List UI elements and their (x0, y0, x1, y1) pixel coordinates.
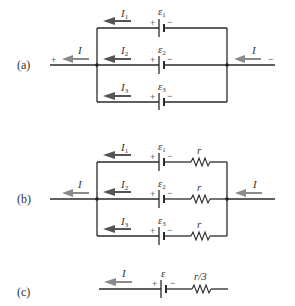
circuit-diagram: (a) I + I − + − ε1 I1 (0, 0, 295, 306)
branch-current-label: I1 (120, 141, 129, 155)
battery-plus-sign: + (150, 92, 155, 102)
battery-minus-sign: − (167, 188, 172, 198)
branch-1: + − ε1 I1 (97, 5, 227, 37)
resistor-label: r/3 (194, 270, 207, 282)
branch-current-label: I3 (120, 81, 129, 95)
arrow-head-icon (103, 225, 115, 233)
battery-minus-sign: − (167, 225, 172, 235)
current-label-right: I (252, 178, 258, 190)
branch-1: + − ε1 r I1 (97, 140, 227, 171)
arrow-head-icon (103, 188, 115, 196)
battery-minus-sign: − (167, 151, 172, 161)
arrow-head-icon (103, 17, 115, 25)
arrow-head-icon (104, 278, 116, 286)
resistor-symbol (192, 285, 211, 293)
battery-minus-sign: − (170, 278, 175, 288)
arrow-head-icon (235, 189, 246, 197)
current-label-left: I (77, 44, 83, 56)
arrow-head-icon (62, 55, 73, 63)
arrow-head-icon (103, 151, 115, 159)
battery-plus-sign: + (150, 189, 155, 199)
battery-minus-sign: − (167, 54, 172, 64)
panel-b-label: (b) (17, 192, 31, 206)
arrow-head-icon (234, 55, 245, 63)
panel-a: (a) I + I − + − ε1 I1 (17, 5, 275, 110)
panel-b: (b) I I + − ε1 r I1 (17, 140, 275, 245)
battery-plus-sign: + (150, 18, 155, 28)
emf-label: ε1 (158, 5, 166, 19)
panel-c: (c) + − ε r/3 I (17, 267, 228, 299)
resistor-label: r (197, 181, 202, 193)
battery-minus-sign: − (167, 17, 172, 27)
plus-terminal-sign: + (51, 55, 56, 65)
resistor-label: r (197, 218, 202, 230)
emf-label: ε2 (158, 43, 166, 57)
branch-current-label: I2 (120, 178, 129, 192)
battery-plus-sign: + (150, 226, 155, 236)
emf-label: ε2 (158, 177, 166, 191)
battery-plus-sign: + (152, 279, 157, 289)
arrow-head-icon (103, 92, 115, 100)
branch-current-label: I2 (120, 44, 129, 58)
branch-2: + − ε2 r I2 (97, 177, 227, 208)
branch-current-label: I1 (120, 7, 129, 21)
arrow-head-icon (103, 55, 115, 63)
resistor-symbol (191, 158, 210, 166)
battery-plus-sign: + (150, 55, 155, 65)
branch-3: + − ε3 I3 (97, 80, 227, 110)
current-label: I (121, 267, 127, 279)
current-label-right: I (251, 44, 257, 56)
arrow-head-icon (62, 189, 73, 197)
branch-current-label: I3 (120, 215, 129, 229)
branch-3: + − ε3 r I3 (97, 214, 227, 245)
panel-c-label: (c) (17, 285, 30, 299)
resistor-label: r (197, 144, 202, 156)
emf-label: ε1 (158, 140, 166, 154)
resistor-symbol (191, 232, 210, 240)
emf-label: ε3 (158, 80, 166, 94)
minus-terminal-sign: − (268, 54, 273, 64)
emf-label: ε3 (158, 214, 166, 228)
panel-a-label: (a) (17, 58, 30, 72)
current-label-left: I (77, 178, 83, 190)
resistor-symbol (191, 195, 210, 203)
emf-label: ε (161, 267, 166, 279)
branch-2: + − ε2 I2 (97, 43, 227, 74)
battery-plus-sign: + (150, 152, 155, 162)
battery-minus-sign: − (167, 91, 172, 101)
